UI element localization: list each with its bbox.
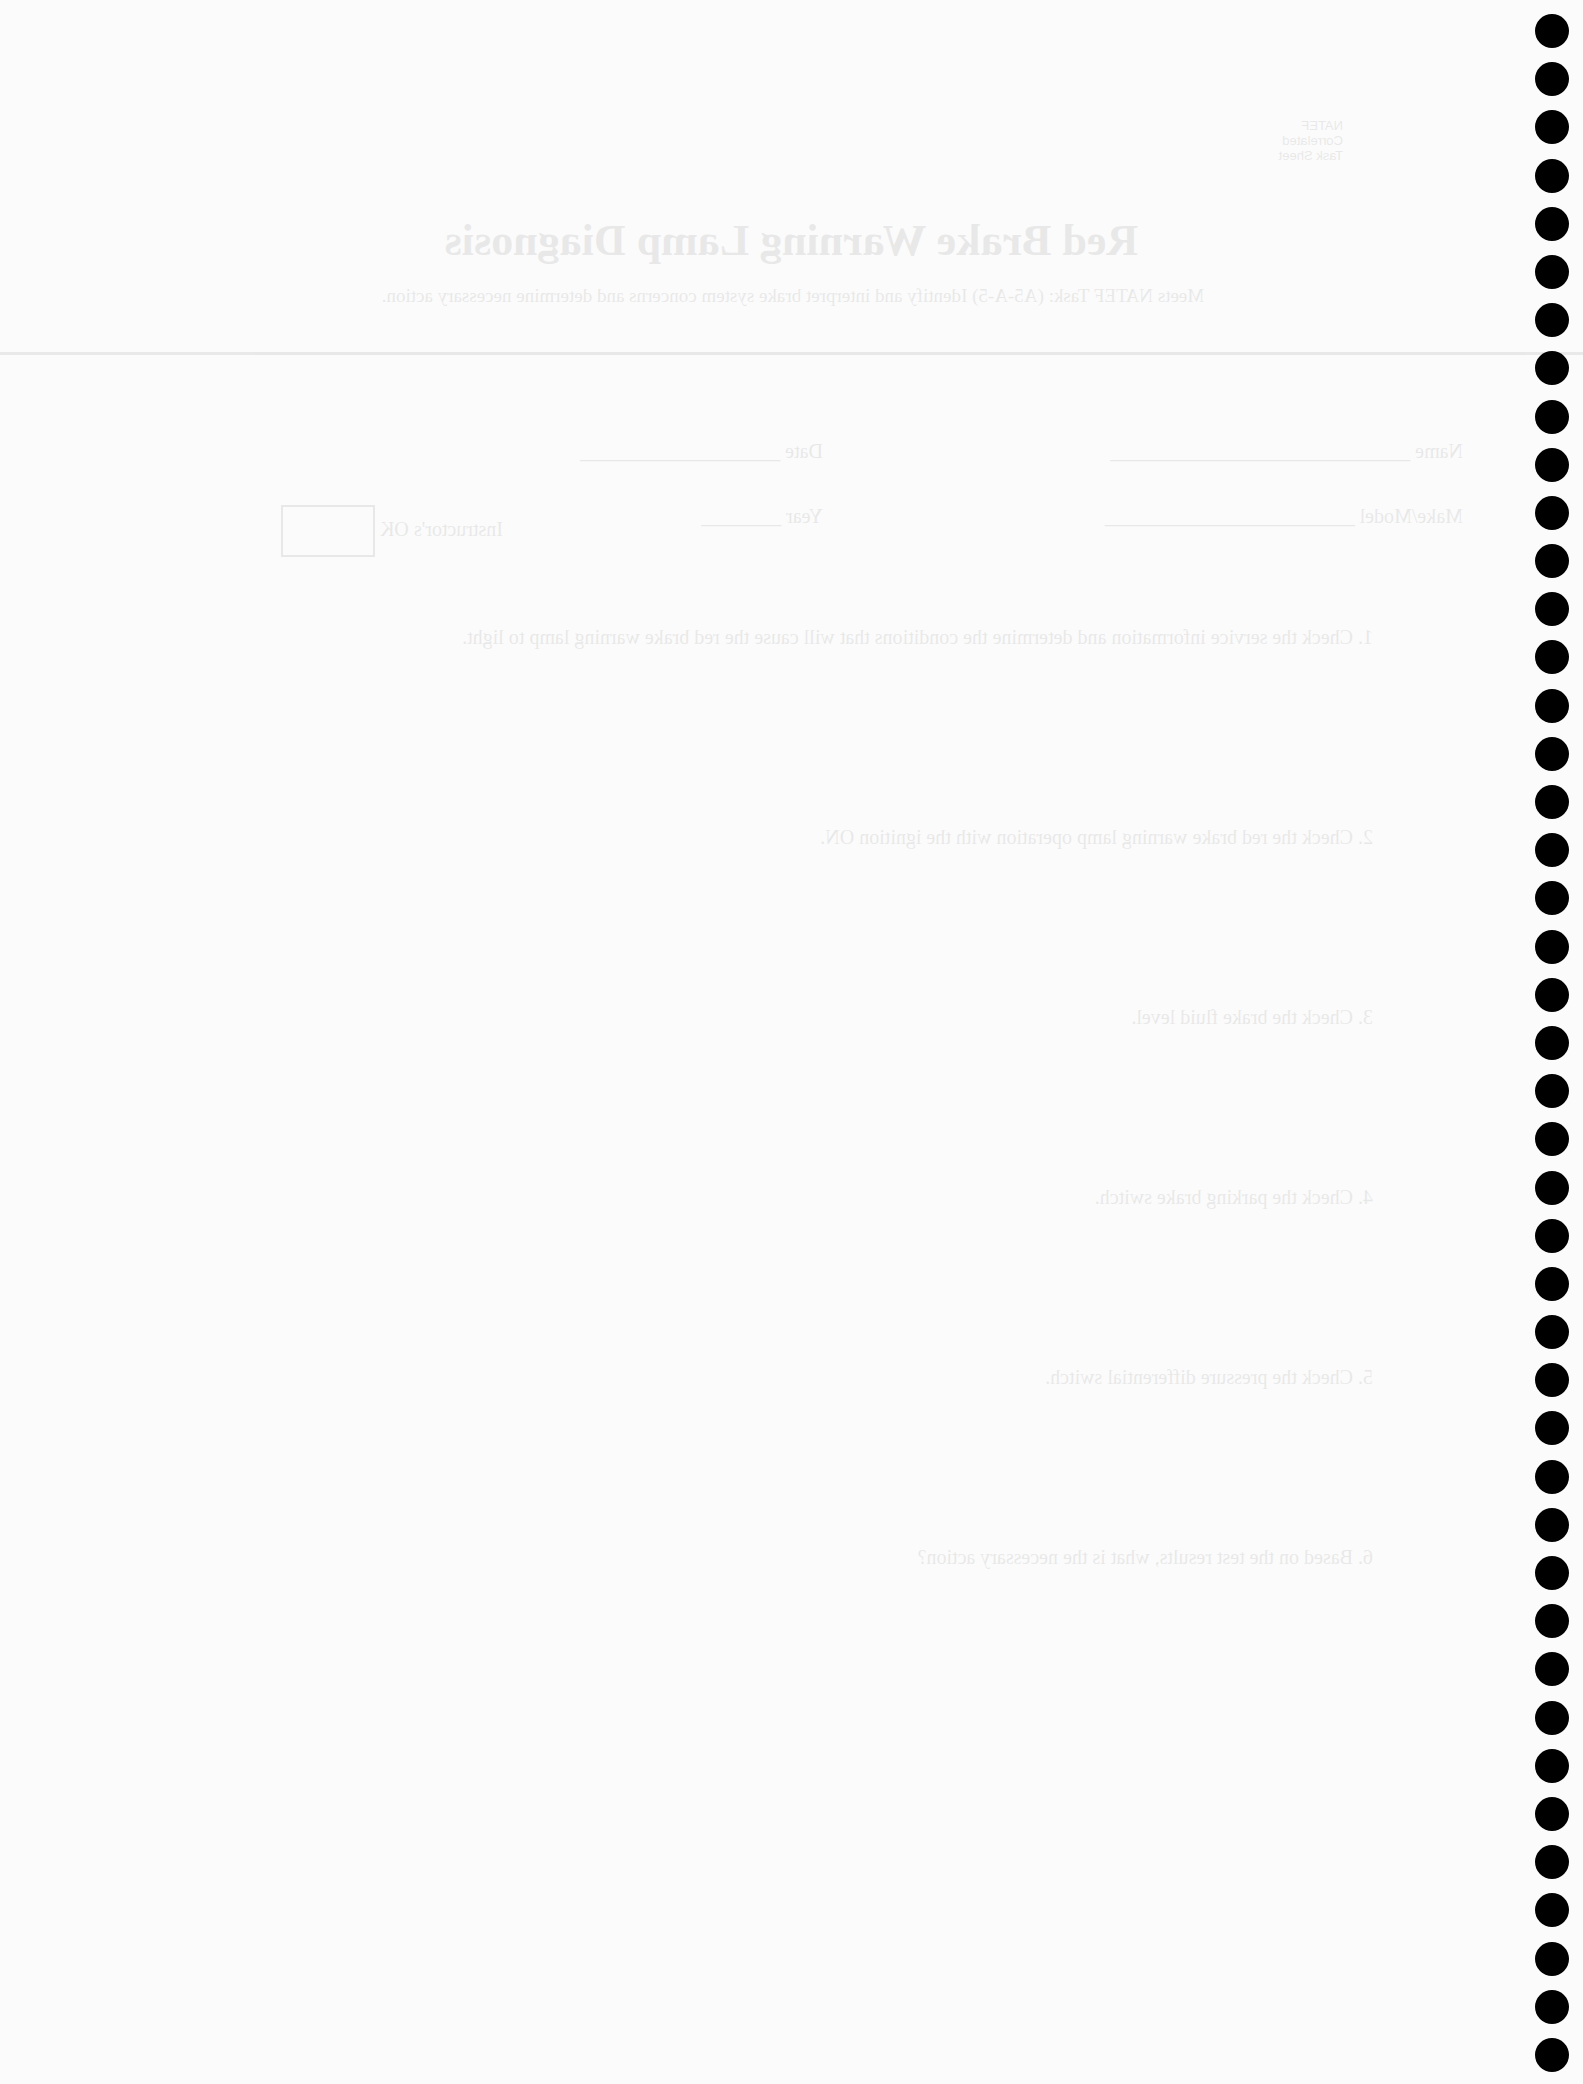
make-model-field: Make/Model _________________________	[1105, 505, 1463, 528]
binding-hole-icon	[1535, 1990, 1569, 2024]
binding-hole-icon	[1535, 1074, 1569, 1108]
make-model-label: Make/Model	[1360, 505, 1463, 527]
instructor-ok-field: Instructor's OK	[281, 505, 503, 557]
binding-hole-icon	[1535, 400, 1569, 434]
binding-hole-icon	[1535, 1556, 1569, 1590]
binding-hole-icon	[1535, 833, 1569, 867]
binding-hole-icon	[1535, 1315, 1569, 1349]
header-tag-line: Task Sheet	[1279, 148, 1343, 163]
binding-hole-icon	[1535, 1893, 1569, 1927]
binding-hole-icon	[1535, 1171, 1569, 1205]
binding-hole-icon	[1535, 1219, 1569, 1253]
header-tag-line: NATEF	[1279, 118, 1343, 133]
binding-hole-icon	[1535, 351, 1569, 385]
binding-hole-icon	[1535, 110, 1569, 144]
binding-hole-icon	[1535, 544, 1569, 578]
binding-hole-icon	[1535, 640, 1569, 674]
binding-hole-icon	[1535, 1363, 1569, 1397]
page-subtitle: Meets NATEF Task: (A5-A-5) Identify and …	[263, 282, 1323, 310]
header-tag-line: Correlated	[1279, 133, 1343, 148]
binding-hole-icon	[1535, 207, 1569, 241]
spiral-binding	[1535, 14, 1575, 2084]
bleed-through-page: NATEF Correlated Task Sheet Red Brake Wa…	[0, 0, 1583, 2084]
question-item: 3. Check the brake fluid level.	[223, 1000, 1373, 1034]
binding-hole-icon	[1535, 930, 1569, 964]
binding-hole-icon	[1535, 1701, 1569, 1735]
question-item: 6. Based on the test results, what is th…	[223, 1540, 1373, 1574]
natef-header-tag: NATEF Correlated Task Sheet	[1279, 118, 1343, 163]
page-title: Red Brake Warning Lamp Diagnosis	[0, 215, 1583, 266]
binding-hole-icon	[1535, 1122, 1569, 1156]
question-item: 5. Check the pressure differential switc…	[223, 1360, 1373, 1394]
instructor-ok-label: Instructor's OK	[380, 518, 503, 540]
binding-hole-icon	[1535, 1508, 1569, 1542]
binding-hole-icon	[1535, 1942, 1569, 1976]
header-rule	[0, 352, 1583, 355]
binding-hole-icon	[1535, 159, 1569, 193]
binding-hole-icon	[1535, 592, 1569, 626]
binding-hole-icon	[1535, 303, 1569, 337]
binding-hole-icon	[1535, 737, 1569, 771]
binding-hole-icon	[1535, 496, 1569, 530]
binding-hole-icon	[1535, 1749, 1569, 1783]
binding-hole-icon	[1535, 1797, 1569, 1831]
question-item: 1. Check the service information and det…	[223, 620, 1373, 654]
binding-hole-icon	[1535, 1604, 1569, 1638]
binding-hole-icon	[1535, 1845, 1569, 1879]
instructor-ok-box	[281, 505, 375, 557]
binding-hole-icon	[1535, 785, 1569, 819]
binding-hole-icon	[1535, 1460, 1569, 1494]
binding-hole-icon	[1535, 978, 1569, 1012]
question-item: 4. Check the parking brake switch.	[223, 1180, 1373, 1214]
date-label: Date	[785, 440, 823, 462]
question-item: 2. Check the red brake warning lamp oper…	[223, 820, 1373, 854]
binding-hole-icon	[1535, 2038, 1569, 2072]
binding-hole-icon	[1535, 689, 1569, 723]
binding-hole-icon	[1535, 14, 1569, 48]
year-field: Year ________	[701, 505, 823, 528]
binding-hole-icon	[1535, 1267, 1569, 1301]
binding-hole-icon	[1535, 1411, 1569, 1445]
name-label: Name	[1415, 440, 1463, 462]
binding-hole-icon	[1535, 1652, 1569, 1686]
binding-hole-icon	[1535, 448, 1569, 482]
year-label: Year	[786, 505, 823, 527]
binding-hole-icon	[1535, 62, 1569, 96]
name-field: Name ______________________________	[1110, 440, 1463, 463]
binding-hole-icon	[1535, 1026, 1569, 1060]
binding-hole-icon	[1535, 881, 1569, 915]
date-field: Date ____________________	[580, 440, 823, 463]
binding-hole-icon	[1535, 255, 1569, 289]
